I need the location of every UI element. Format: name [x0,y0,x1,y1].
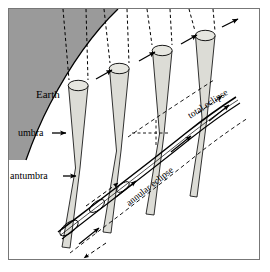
shadow-cone-2 [103,63,129,233]
label-pointer-arrows [52,133,76,176]
moon-disk-1 [68,80,88,90]
moon-shadow-cones [62,30,215,248]
shadow-cone-1 [62,80,88,248]
label-umbra: umbra [18,127,44,138]
moon-disk-3 [152,45,172,55]
moon-disk-2 [109,63,129,73]
eclipse-diagram-figure: Earth umbra antumbra total eclipse annul… [0,0,270,272]
moon-disk-4 [195,30,215,40]
label-antumbra: antumbra [10,170,48,181]
label-earth: Earth [36,88,60,100]
